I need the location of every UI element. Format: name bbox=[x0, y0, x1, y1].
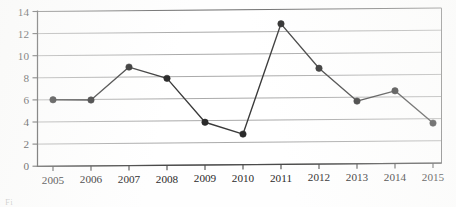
y-tick-label-6: 6 bbox=[23, 94, 29, 106]
x-tick-label-2015: 2015 bbox=[422, 171, 445, 183]
data-point-2010 bbox=[240, 131, 246, 137]
y-tick-label-10: 10 bbox=[18, 50, 30, 62]
data-point-2009 bbox=[202, 119, 208, 125]
data-point-2011 bbox=[278, 21, 284, 27]
data-point-2007 bbox=[126, 64, 132, 70]
x-tick-label-2007: 2007 bbox=[118, 173, 141, 185]
data-point-2006 bbox=[88, 97, 94, 103]
y-tick-label-14: 14 bbox=[18, 6, 30, 18]
y-tick-label-12: 12 bbox=[18, 28, 29, 40]
x-tick-label-2013: 2013 bbox=[346, 171, 369, 183]
x-tick-label-2014: 2014 bbox=[384, 171, 407, 183]
y-tick-marks bbox=[33, 12, 38, 167]
y-tick-label-8: 8 bbox=[23, 72, 29, 84]
figure-root: 14 12 10 8 6 4 2 0 2005 2006 20 bbox=[0, 0, 456, 207]
y-tick-label-4: 4 bbox=[23, 116, 29, 128]
x-tick-label-2008: 2008 bbox=[156, 173, 179, 185]
line-chart: 14 12 10 8 6 4 2 0 2005 2006 20 bbox=[0, 0, 456, 207]
x-axis-labels: 2005 2006 2007 2008 2009 2010 2011 2012 … bbox=[42, 171, 445, 186]
x-tick-label-2006: 2006 bbox=[80, 173, 103, 185]
data-point-2013 bbox=[354, 98, 360, 104]
x-tick-label-2009: 2009 bbox=[194, 172, 217, 184]
x-tick-label-2005: 2005 bbox=[42, 174, 65, 186]
y-tick-label-0: 0 bbox=[23, 160, 29, 172]
data-point-2015 bbox=[430, 120, 436, 126]
x-tick-label-2011: 2011 bbox=[270, 172, 292, 184]
data-point-2008 bbox=[164, 75, 170, 81]
x-tick-label-2012: 2012 bbox=[308, 171, 330, 183]
y-axis-labels: 14 12 10 8 6 4 2 0 bbox=[18, 6, 30, 173]
data-point-2014 bbox=[392, 88, 398, 94]
clipped-caption-text: Fi bbox=[5, 197, 13, 206]
x-tick-label-2010: 2010 bbox=[232, 172, 255, 184]
data-point-2005 bbox=[50, 97, 56, 103]
y-tick-label-2: 2 bbox=[23, 138, 29, 150]
data-point-2012 bbox=[316, 65, 322, 71]
frame-top bbox=[38, 8, 442, 11]
